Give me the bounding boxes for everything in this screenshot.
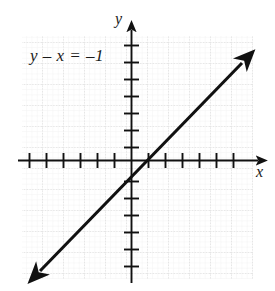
equation-text: y – x = –1: [30, 46, 104, 65]
x-axis-label: x: [256, 163, 263, 181]
equation-annotation: y – x = –1: [30, 46, 104, 66]
coordinate-plane: [0, 0, 275, 291]
grid-background: [22, 36, 253, 279]
y-axis-label: y: [115, 10, 122, 28]
graph-figure: y – x = –1 y x: [0, 0, 275, 291]
